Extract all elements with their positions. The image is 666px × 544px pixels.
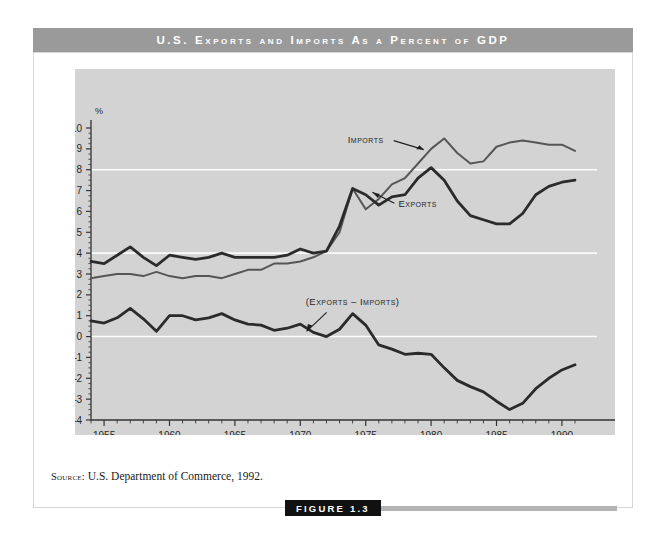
y-axis-tick-label: –1 (75, 352, 82, 363)
y-axis-tick-label: 8 (76, 164, 82, 175)
x-axis-tick-label: 1985 (485, 430, 508, 435)
chart-title-banner: U.S. Exports and Imports As a Percent of… (33, 28, 633, 52)
y-axis-tick-label: –3 (75, 394, 82, 405)
x-axis-tick-label: 1980 (420, 430, 443, 435)
difference-line (91, 308, 575, 409)
x-axis-tick-label: 1970 (289, 430, 312, 435)
y-axis-tick-label: 6 (76, 206, 82, 217)
x-axis-tick-label: 1990 (551, 430, 574, 435)
chart-svg: –4–3–2–1012345678910%1955196019651970197… (75, 69, 615, 435)
y-axis-tick-label: 5 (76, 227, 82, 238)
x-axis-tick-label: 1965 (224, 430, 247, 435)
figure-caption: FIGURE 1.3 (285, 500, 617, 516)
difference-annotation-label: (Exports – Imports) (306, 296, 400, 307)
x-axis-tick-label: 1975 (355, 430, 378, 435)
figure-badge-label: FIGURE 1.3 (296, 503, 370, 514)
y-axis-tick-label: 4 (76, 248, 82, 259)
exports-annotation-arrow (372, 192, 379, 198)
exports-line (91, 168, 575, 266)
difference-annotation-leader (307, 312, 327, 331)
figure-badge: FIGURE 1.3 (285, 500, 381, 516)
y-axis-tick-label: 9 (76, 143, 82, 154)
y-axis-tick-label: 1 (76, 310, 82, 321)
y-axis-tick-label: 2 (76, 289, 82, 300)
y-axis-unit-label: % (95, 106, 103, 116)
plot-area: –4–3–2–1012345678910%1955196019651970197… (75, 69, 615, 435)
x-axis-tick-label: 1960 (158, 430, 181, 435)
exports-annotation-label: Exports (398, 198, 437, 209)
y-axis-tick-label: 7 (76, 185, 82, 196)
figure-page: U.S. Exports and Imports As a Percent of… (0, 0, 666, 544)
imports-annotation-label: Imports (348, 134, 384, 145)
y-axis-tick-label: 3 (76, 269, 82, 280)
y-axis-tick-label: –4 (75, 415, 82, 426)
figure-rule (381, 506, 617, 511)
imports-line (91, 138, 575, 278)
page-title: U.S. Exports and Imports As a Percent of… (156, 34, 509, 46)
x-axis-tick-label: 1955 (93, 430, 116, 435)
y-axis-tick-label: 0 (76, 331, 82, 342)
source-note: Source: U.S. Department of Commerce, 199… (51, 470, 263, 482)
y-axis-tick-label: –2 (75, 373, 82, 384)
y-axis-tick-label: 10 (75, 123, 82, 134)
source-text: U.S. Department of Commerce, 1992. (88, 470, 263, 482)
source-label: Source: (51, 471, 85, 482)
